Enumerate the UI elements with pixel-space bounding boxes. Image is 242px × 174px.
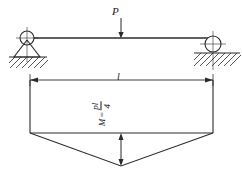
moment-denominator: 4 [103,103,112,110]
figure-canvas: P l M = pl 4 [0,0,242,174]
beam-moment-diagram [0,0,242,174]
load-arrow-P [118,18,123,39]
moment-equals-sign: = [96,112,106,118]
moment-numerator: pl [91,102,100,111]
moment-symbol: M [96,119,106,127]
left-pinned-support [9,27,48,68]
right-roller-support [194,31,241,70]
load-label-P: P [112,6,119,17]
moment-expression: M = pl 4 [91,102,112,127]
moment-peak-arrow [119,133,124,166]
span-dimension-line [30,74,213,86]
moment-value-label: M = pl 4 [93,92,109,136]
span-label-l: l [117,72,120,82]
moment-fraction: pl 4 [91,102,112,111]
